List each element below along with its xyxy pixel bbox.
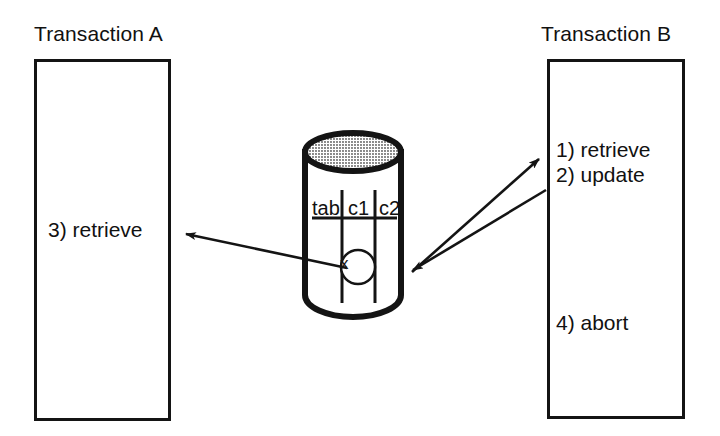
arrow-db-to-transaction-a (186, 234, 347, 268)
diagram-canvas: Transaction A Transaction B 3) retrieve … (0, 0, 720, 436)
arrow-db-to-transaction-b (412, 159, 539, 272)
arrows-layer (0, 0, 720, 436)
arrow-transaction-b-to-db (413, 190, 546, 270)
